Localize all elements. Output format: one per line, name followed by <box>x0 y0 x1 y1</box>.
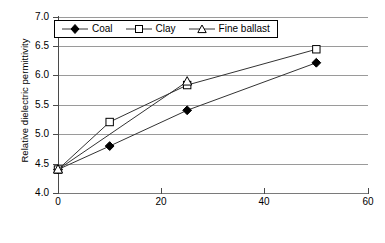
filled-diamond-icon <box>62 23 88 35</box>
data-point-clay <box>313 46 320 53</box>
open-triangle-icon <box>189 23 215 35</box>
data-point-coal <box>105 142 114 151</box>
data-point-coal <box>183 106 192 115</box>
data-point-coal <box>312 58 321 67</box>
legend-label-clay: Clay <box>156 24 176 34</box>
legend: Coal Clay Fine ballast <box>54 20 278 38</box>
data-point-clay <box>106 118 113 125</box>
chart-container: Relative dielectric permittivity 7.0 6.5… <box>0 0 385 243</box>
legend-item-fine-ballast: Fine ballast <box>189 23 270 35</box>
legend-item-clay: Clay <box>126 23 176 35</box>
open-square-icon <box>126 23 152 35</box>
series-line-fine-ballast <box>58 82 187 170</box>
data-point-fine-ballast <box>183 77 192 85</box>
legend-item-coal: Coal <box>62 23 113 35</box>
legend-label-fine-ballast: Fine ballast <box>219 24 270 34</box>
legend-label-coal: Coal <box>92 24 113 34</box>
